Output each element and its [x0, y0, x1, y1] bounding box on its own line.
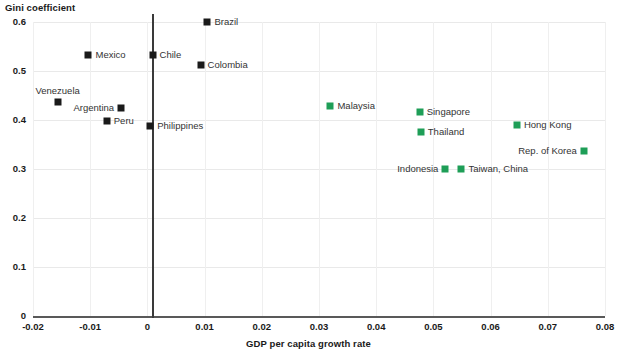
data-point-marker[interactable]	[54, 98, 61, 105]
data-point-label: Indonesia	[397, 164, 438, 174]
y-axis-title: Gini coefficient	[5, 2, 75, 13]
data-point-label: Argentina	[73, 103, 114, 113]
scatter-chart: Gini coefficient 00.10.20.30.40.50.6 -0.…	[0, 0, 617, 354]
data-point-label: Rep. of Korea	[518, 146, 577, 156]
data-point-label: Brazil	[214, 17, 238, 27]
data-point-marker[interactable]	[85, 51, 92, 58]
data-point-marker[interactable]	[204, 19, 211, 26]
data-point-label: Chile	[160, 50, 182, 60]
x-axis-tick-label: 0.05	[411, 322, 455, 332]
data-point-marker[interactable]	[149, 51, 156, 58]
y-axis-tick-label: 0.1	[0, 262, 26, 272]
x-axis-tick-label: -0.02	[11, 322, 55, 332]
data-point-label: Mexico	[95, 50, 125, 60]
gridline-vertical	[147, 22, 148, 316]
data-point-marker[interactable]	[103, 117, 110, 124]
gridline-vertical	[548, 22, 549, 316]
y-axis-tick-label: 0.3	[0, 164, 26, 174]
y-axis-tick-label: 0.4	[0, 115, 26, 125]
data-point-label: Thailand	[428, 127, 464, 137]
data-point-marker[interactable]	[147, 122, 154, 129]
x-axis-tick-label: 0.07	[526, 322, 570, 332]
gridline-vertical	[262, 22, 263, 316]
data-point-marker[interactable]	[197, 62, 204, 69]
y-axis-line	[152, 14, 154, 318]
x-axis-tick-label: 0	[125, 322, 169, 332]
x-axis-tick-label: 0.04	[354, 322, 398, 332]
x-axis-line	[33, 316, 605, 318]
data-point-label: Venezuela	[35, 86, 79, 96]
data-point-marker[interactable]	[118, 104, 125, 111]
data-point-label: Malaysia	[337, 101, 375, 111]
x-axis-tick-label: -0.01	[68, 322, 112, 332]
y-axis-tick-label: 0.2	[0, 213, 26, 223]
data-point-label: Philippines	[157, 121, 203, 131]
data-point-marker[interactable]	[580, 147, 587, 154]
x-axis-tick-label: 0.02	[240, 322, 284, 332]
data-point-label: Colombia	[208, 60, 248, 70]
data-point-marker[interactable]	[416, 109, 423, 116]
gridline-vertical	[605, 22, 606, 316]
x-axis-tick-label: 0.01	[183, 322, 227, 332]
x-axis-tick-label: 0.06	[469, 322, 513, 332]
data-point-marker[interactable]	[458, 166, 465, 173]
data-point-marker[interactable]	[513, 121, 520, 128]
gridline-vertical	[33, 22, 34, 316]
gridline-vertical	[376, 22, 377, 316]
y-axis-tick-label: 0.6	[0, 17, 26, 27]
gridline-vertical	[205, 22, 206, 316]
gridline-vertical	[319, 22, 320, 316]
data-point-label: Peru	[114, 116, 134, 126]
data-point-marker[interactable]	[417, 129, 424, 136]
x-axis-tick-label: 0.08	[583, 322, 617, 332]
data-point-marker[interactable]	[442, 166, 449, 173]
data-point-label: Hong Kong	[524, 120, 572, 130]
y-axis-tick-label: 0	[0, 311, 26, 321]
data-point-label: Taiwan, China	[468, 164, 528, 174]
y-axis-tick-label: 0.5	[0, 66, 26, 76]
gridline-vertical	[90, 22, 91, 316]
data-point-marker[interactable]	[327, 102, 334, 109]
data-point-label: Singapore	[427, 107, 470, 117]
x-axis-tick-label: 0.03	[297, 322, 341, 332]
x-axis-title: GDP per capita growth rate	[0, 338, 617, 349]
